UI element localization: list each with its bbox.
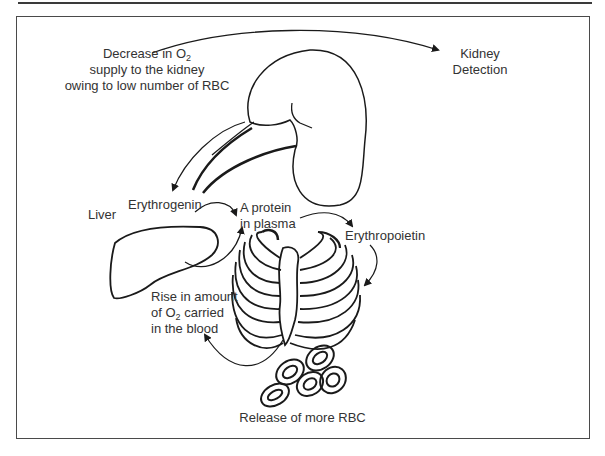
label-release-rbc: Release of more RBC <box>220 410 385 426</box>
arrow-protein-to-erythropoietin <box>300 213 352 226</box>
label-liver: Liver <box>88 207 116 223</box>
label-kidney-detection: Kidney Detection <box>430 46 530 78</box>
red-blood-cells-icon <box>257 340 351 411</box>
arrow-kidney-to-erythrogenin <box>173 122 245 190</box>
label-erythropoietin: Erythropoietin <box>345 228 425 244</box>
label-decrease-o2: Decrease in O2 supply to the kidney owin… <box>62 46 232 94</box>
rib-cage-icon <box>232 230 360 349</box>
arrow-rbc-to-rise-o2 <box>205 335 283 366</box>
arrow-liver-to-protein <box>185 228 242 267</box>
label-rise-o2: Rise in amount of O2 carried in the bloo… <box>151 289 238 337</box>
liver-icon <box>110 227 218 299</box>
arrow-erythropoietin-to-marrow <box>365 245 377 285</box>
label-erythrogenin: Erythrogenin <box>128 197 202 213</box>
label-protein-in-plasma: A protein in plasma <box>240 200 296 232</box>
